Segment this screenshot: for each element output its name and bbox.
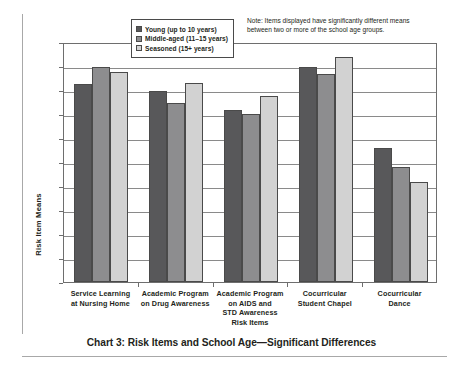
bar-group xyxy=(374,44,428,282)
legend-swatch-icon xyxy=(136,36,142,42)
legend-label: Seasoned (15+ years) xyxy=(145,45,214,52)
chart-caption: Chart 3: Risk Items and School Age—Signi… xyxy=(0,337,463,348)
bar xyxy=(74,84,92,282)
bar xyxy=(335,57,353,282)
chart-note: Note: Items displayed have significantly… xyxy=(247,16,457,34)
bar xyxy=(224,110,242,282)
bar xyxy=(149,91,167,282)
legend-item: Young (up to 10 years) xyxy=(136,26,229,33)
x-axis-category-line: on AIDS and xyxy=(207,299,293,309)
x-axis-category-line: Dance xyxy=(357,299,443,309)
x-axis-category-label: CocurricularStudent Chapel xyxy=(282,289,368,308)
x-axis-tick-mark xyxy=(287,283,288,287)
x-axis-category-line: Academic Program xyxy=(207,289,293,299)
x-axis-category-line: Cocurricular xyxy=(357,289,443,299)
bar xyxy=(110,72,128,282)
bar-group xyxy=(74,44,128,282)
legend-item: Seasoned (15+ years) xyxy=(136,45,229,52)
bar xyxy=(392,167,410,282)
x-axis-tick-mark xyxy=(138,283,139,287)
bar xyxy=(185,83,203,282)
x-axis-category-label: Academic Programon AIDS andSTD Awareness xyxy=(207,289,293,318)
x-axis-category-line: STD Awareness xyxy=(207,308,293,318)
bar-group xyxy=(224,44,278,282)
bar xyxy=(242,114,260,282)
legend-label: Young (up to 10 years) xyxy=(145,26,217,33)
bar xyxy=(167,103,185,282)
x-axis-title: Risk Items xyxy=(63,318,437,327)
x-axis-category-line: Cocurricular xyxy=(282,289,368,299)
bar-group xyxy=(299,44,353,282)
y-axis-tick-mark xyxy=(59,283,63,284)
chart-note-line-1: Note: Items displayed have significantly… xyxy=(247,16,457,25)
bar xyxy=(92,67,110,282)
x-axis-tick-mark xyxy=(362,283,363,287)
plot-area xyxy=(63,43,437,283)
legend-item: Middle-aged (11–15 years) xyxy=(136,35,229,42)
chart-note-line-2: between two or more of the school age gr… xyxy=(247,25,457,34)
x-axis-category-label: CocurricularDance xyxy=(357,289,443,308)
x-axis-category-label: Service Learningat Nursing Home xyxy=(57,289,143,308)
legend-label: Middle-aged (11–15 years) xyxy=(145,35,228,42)
bar xyxy=(374,148,392,282)
x-axis-category-line: on Drug Awareness xyxy=(132,299,218,309)
x-axis-category-line: at Nursing Home xyxy=(57,299,143,309)
bar xyxy=(317,74,335,282)
x-axis-category-line: Student Chapel xyxy=(282,299,368,309)
bar xyxy=(410,182,428,282)
x-axis-category-line: Academic Program xyxy=(132,289,218,299)
legend-swatch-icon xyxy=(136,26,142,32)
x-axis-tick-mark xyxy=(213,283,214,287)
legend-swatch-icon xyxy=(136,45,142,51)
x-axis-category-label: Academic Programon Drug Awareness xyxy=(132,289,218,308)
bar xyxy=(299,67,317,282)
x-axis-category-line: Service Learning xyxy=(57,289,143,299)
chart-page: Risk Item Means 5.0004.5004.0003.5003.00… xyxy=(0,0,463,372)
bar xyxy=(260,96,278,282)
bar-group xyxy=(149,44,203,282)
legend: Young (up to 10 years)Middle-aged (11–15… xyxy=(131,19,234,58)
